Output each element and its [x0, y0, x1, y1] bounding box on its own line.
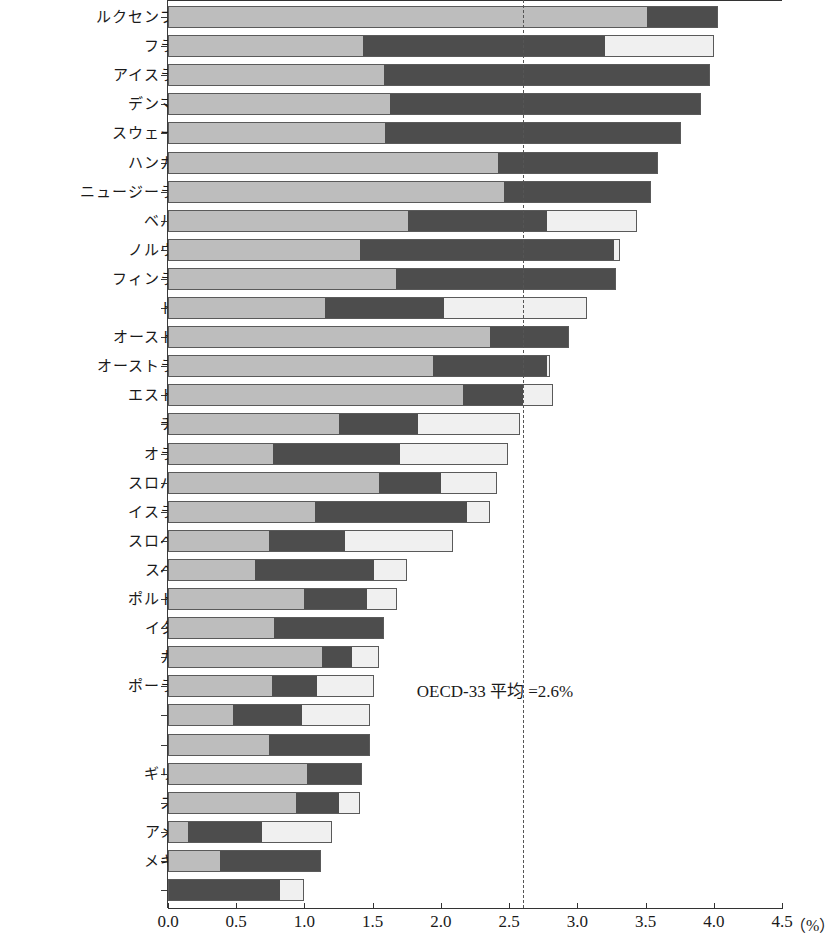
stacked-bar-chart: ルクセンブルクフランスアイスランドデンマークスウェーデンハンガリーニュージーラン… [0, 0, 838, 941]
bar-segment-segment_a [168, 501, 315, 523]
bar-segment-segment_b [433, 355, 548, 377]
bar-row: デンマーク [0, 89, 838, 119]
bar-row: イタリア [0, 613, 838, 643]
x-axis-tick [304, 903, 305, 909]
bar-segment-segment_b [396, 268, 616, 290]
bar-segment-segment_a [168, 122, 385, 144]
bar-segment-segment_b [307, 763, 362, 785]
bar-segment-segment_b [296, 792, 338, 814]
bar-segment-segment_b [384, 64, 710, 86]
bar-row: ドイツ [0, 293, 838, 323]
bar-segment-segment_a [168, 152, 498, 174]
bar-segment-segment_b [490, 326, 569, 348]
bar-segment-segment_c [374, 559, 407, 581]
bar-segment-segment_a [168, 384, 463, 406]
bar-row: ポルトガル [0, 584, 838, 614]
bar-segment-segment_a [168, 93, 390, 115]
oecd-average-reference-line [523, 0, 524, 908]
x-axis-tick [509, 903, 510, 909]
bar-segment-segment_c [547, 210, 637, 232]
bar-row: スウェーデン [0, 118, 838, 148]
bar-row: スロバキア [0, 468, 838, 498]
x-axis-tick [373, 903, 374, 909]
x-axis-tick-label: 1.5 [343, 912, 403, 932]
bar-segment-segment_b [379, 472, 440, 494]
bar-segment-segment_b [363, 35, 605, 57]
bar-segment-segment_b [647, 6, 718, 28]
bar-row: メキシコ [0, 846, 838, 876]
bar-segment-segment_c [317, 675, 374, 697]
bar-segment-segment_b [315, 501, 466, 523]
bar-row: ルクセンブルク [0, 2, 838, 32]
bar-segment-segment_a [168, 297, 325, 319]
x-axis-line [168, 908, 782, 909]
bar-segment-segment_c [605, 35, 714, 57]
bar-row: 日本 [0, 700, 838, 730]
bar-segment-segment_b [385, 122, 681, 144]
bar-segment-segment_a [168, 763, 307, 785]
bar-segment-segment_b [233, 704, 301, 726]
x-axis-tick-label: 2.5 [479, 912, 539, 932]
x-axis-tick [646, 903, 647, 909]
bar-segment-segment_a [168, 675, 272, 697]
bar-segment-segment_c [352, 646, 379, 668]
bar-segment-segment_b [269, 734, 370, 756]
bar-row: イスラエル [0, 497, 838, 527]
bar-segment-segment_a [168, 210, 408, 232]
bar-row: フィンランド [0, 264, 838, 294]
bar-segment-segment_b [322, 646, 352, 668]
bar-segment-segment_c [302, 704, 370, 726]
bar-segment-segment_a [168, 239, 360, 261]
bar-segment-segment_b [272, 675, 317, 697]
x-axis-tick-label: 4.0 [684, 912, 744, 932]
bar-segment-segment_a [168, 181, 504, 203]
plot-top-border [168, 0, 782, 1]
x-axis-tick-label: 0.0 [138, 912, 198, 932]
bar-row: エストニア [0, 380, 838, 410]
bar-segment-segment_b [255, 559, 374, 581]
bar-row: スイス [0, 788, 838, 818]
bar-row: オランダ [0, 439, 838, 469]
bar-segment-segment_a [168, 559, 255, 581]
oecd-average-label: OECD-33 平均 =2.6% [417, 677, 573, 702]
x-axis-tick-label: 3.5 [616, 912, 676, 932]
bar-segment-segment_b [168, 879, 280, 901]
bar-segment-segment_a [168, 530, 269, 552]
plot-area: ルクセンブルクフランスアイスランドデンマークスウェーデンハンガリーニュージーラン… [0, 0, 838, 941]
bar-segment-segment_c [547, 355, 550, 377]
bar-segment-segment_a [168, 734, 269, 756]
bar-row: ギリシャ [0, 759, 838, 789]
bar-row: フランス [0, 31, 838, 61]
bar-segment-segment_c [280, 879, 305, 901]
bar-segment-segment_c [400, 443, 508, 465]
bar-segment-segment_a [168, 64, 384, 86]
bar-row: アメリカ [0, 817, 838, 847]
bar-segment-segment_a [168, 268, 396, 290]
x-axis-tick [441, 903, 442, 909]
bar-segment-segment_b [325, 297, 444, 319]
bar-segment-segment_b [339, 413, 418, 435]
bar-segment-segment_b [188, 821, 262, 843]
bar-segment-segment_b [274, 617, 383, 639]
x-axis-tick [577, 903, 578, 909]
x-axis-tick [782, 903, 783, 909]
x-axis-tick [236, 903, 237, 909]
bar-segment-segment_a [168, 326, 490, 348]
bar-segment-segment_a [168, 704, 233, 726]
bar-segment-segment_b [360, 239, 614, 261]
bar-row: ハンガリー [0, 148, 838, 178]
bar-segment-segment_a [168, 6, 647, 28]
bar-row: カナダ [0, 642, 838, 672]
bar-segment-segment_a [168, 821, 188, 843]
bar-row: 韓国 [0, 875, 838, 905]
bar-segment-segment_a [168, 472, 379, 494]
bar-segment-segment_a [168, 413, 339, 435]
bar-segment-segment_a [168, 792, 296, 814]
bar-row: アイスランド [0, 60, 838, 90]
x-axis-tick-label: 2.0 [411, 912, 471, 932]
bar-segment-segment_c [467, 501, 490, 523]
bar-segment-segment_c [444, 297, 587, 319]
bar-segment-segment_b [304, 588, 367, 610]
bar-segment-segment_a [168, 617, 274, 639]
bar-segment-segment_c [367, 588, 397, 610]
